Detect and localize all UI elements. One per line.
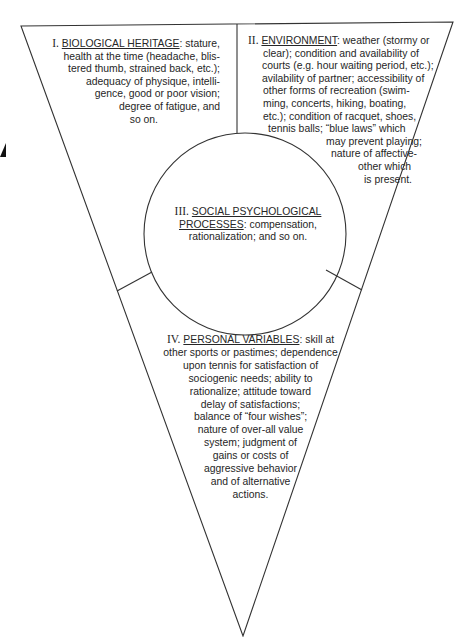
text-line: and of alternative <box>148 476 353 489</box>
text-line: courts (e.g. hour waiting period, etc.); <box>248 60 453 73</box>
section-social-psychological-processes: III. SOCIAL PSYCHOLOGICAL PROCESSES: com… <box>158 205 338 244</box>
text-line: avilability of partner; accessibility of <box>248 73 453 86</box>
text-line: rationalization; and so on. <box>158 231 338 244</box>
text-line: is present. <box>248 174 453 187</box>
text-line: actions. <box>148 489 353 502</box>
section-biological-heritage: I. BIOLOGICAL HERITAGE: stature, health … <box>50 37 220 126</box>
section-heading-cont: PROCESSES <box>179 219 244 230</box>
section-numeral: III. <box>175 205 189 217</box>
text-line: ming, concerts, hiking, boating, <box>248 98 453 111</box>
text-line: clear); condition and availability of <box>248 48 453 61</box>
section-numeral: IV. <box>167 333 181 345</box>
text-line: etc.); condition of racquet, shoes, <box>248 111 453 124</box>
text-line: so on. <box>50 114 220 127</box>
text-line: degree of fatigue, and <box>50 101 220 114</box>
section-heading: BIOLOGICAL HERITAGE <box>62 38 180 49</box>
left-divider <box>117 272 152 291</box>
text-line: gence, good or poor vision; <box>50 88 220 101</box>
section-environment: II. ENVIRONMENT: weather (stormy or clea… <box>248 34 453 186</box>
text-line: tennis balls; “blue laws” which <box>248 123 453 136</box>
text-line: health at the time (headache, blis- <box>50 51 220 64</box>
section-personal-variables: IV. PERSONAL VARIABLES: skill at other s… <box>148 333 353 502</box>
text-line: balance of “four wishes”; <box>148 411 353 424</box>
text-line: upon tennis for satisfaction of <box>148 360 353 373</box>
text-line: rationalize; attitude toward <box>148 386 353 399</box>
text-line: nature of over-all value <box>148 424 353 437</box>
text-line: : compensation, <box>244 219 317 230</box>
text-line: system; judgment of <box>148 437 353 450</box>
text-line: : weather (stormy or <box>337 35 429 46</box>
text-line: aggressive behavior <box>148 463 353 476</box>
text-line: delay of satisfactions; <box>148 399 353 412</box>
section-heading: ENVIRONMENT <box>261 35 337 46</box>
text-line: tered thumb, strained back, etc.); <box>50 63 220 76</box>
text-line: sociogenic needs; ability to <box>148 373 353 386</box>
text-line: : skill at <box>299 334 334 345</box>
section-numeral: I. <box>52 37 59 49</box>
text-line: other sports or pastimes; dependence <box>148 347 353 360</box>
text-line: other forms of recreation (swim- <box>248 85 453 98</box>
text-line: may prevent playing; <box>248 136 453 149</box>
text-line: gains or costs of <box>148 450 353 463</box>
text-line: : stature, <box>180 38 220 49</box>
text-line: other which <box>248 161 453 174</box>
text-line: adequacy of physique, intelli- <box>50 76 220 89</box>
section-numeral: II. <box>248 34 259 46</box>
text-line: nature of affective- <box>248 148 453 161</box>
section-heading: PERSONAL VARIABLES <box>183 334 299 345</box>
section-heading: SOCIAL PSYCHOLOGICAL <box>192 206 322 217</box>
